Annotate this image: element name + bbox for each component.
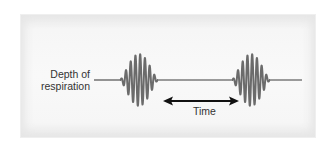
breathing-burst-2 (232, 54, 270, 105)
breathing-burst-1 (120, 54, 158, 105)
depth-label-line2: respiration (41, 80, 90, 92)
time-label: Time (193, 105, 216, 117)
depth-label-line1: Depth of (41, 68, 90, 80)
depth-of-respiration-label: Depth of respiration (41, 68, 90, 92)
